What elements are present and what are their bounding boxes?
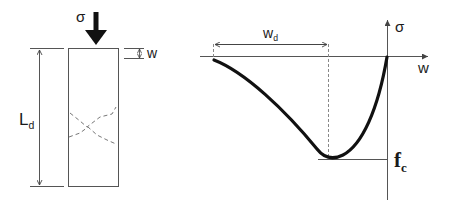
displacement-label: w: [147, 46, 157, 60]
diagram-canvas: [0, 0, 449, 206]
length-label-sub: d: [28, 119, 34, 131]
y-axis-label: σ: [395, 19, 404, 34]
x-axis-label: w: [418, 60, 429, 75]
length-label: Ld: [19, 111, 34, 130]
crack-lines: [69, 107, 116, 144]
load-arrow-icon: [85, 12, 107, 45]
damage-zone-label-sub: d: [273, 33, 278, 43]
damage-zone-label-main: w: [263, 25, 273, 41]
displacement-dimension: [124, 49, 144, 59]
stress-label: σ: [76, 9, 85, 24]
peak-stress-label-sub: c: [401, 160, 407, 175]
specimen-group: [30, 12, 144, 187]
peak-stress-label: fc: [394, 150, 407, 174]
length-dimension: [30, 49, 64, 187]
peak-stress-label-main: f: [394, 148, 401, 172]
damage-zone-label: wd: [263, 26, 278, 43]
stress-curve: [214, 57, 387, 158]
